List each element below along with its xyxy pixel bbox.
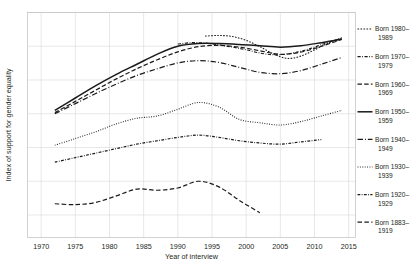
series-line-3 xyxy=(55,39,342,110)
x-axis-title: Year of interview xyxy=(165,252,219,261)
x-tick-label: 2010 xyxy=(307,242,323,251)
series-line-7 xyxy=(55,181,260,213)
legend-label-3[interactable]: Born 1950– xyxy=(375,108,409,115)
legend-label-4[interactable]: Born 1940– xyxy=(375,136,409,143)
legend-label-1-line2[interactable]: 1979 xyxy=(378,62,393,69)
x-tick-label: 1985 xyxy=(136,242,152,251)
legend-label-3-line2[interactable]: 1959 xyxy=(378,117,393,124)
x-tick-label: 1990 xyxy=(170,242,186,251)
legend-label-2-line2[interactable]: 1969 xyxy=(378,89,393,96)
x-tick-label: 1995 xyxy=(204,242,220,251)
chart-container: 1970197519801985199019952000200520102015… xyxy=(0,0,416,275)
x-tick-label: 2000 xyxy=(238,242,254,251)
x-tick-label: 2005 xyxy=(272,242,288,251)
legend-label-5[interactable]: Born 1930– xyxy=(375,163,409,170)
line-chart: 1970197519801985199019952000200520102015… xyxy=(0,0,416,275)
legend-label-7-line2[interactable]: 1919 xyxy=(378,227,393,234)
x-tick-label: 1970 xyxy=(33,242,49,251)
legend-label-2[interactable]: Born 1960– xyxy=(375,81,409,88)
x-tick-label: 1975 xyxy=(67,242,83,251)
series-line-5 xyxy=(55,102,342,145)
x-tick-label: 2015 xyxy=(341,242,357,251)
legend-label-5-line2[interactable]: 1939 xyxy=(378,172,393,179)
legend-label-6-line2[interactable]: 1929 xyxy=(378,200,393,207)
x-tick-label: 1980 xyxy=(102,242,118,251)
legend-label-7[interactable]: Born 1883– xyxy=(375,219,409,226)
legend-label-1[interactable]: Born 1970– xyxy=(375,53,409,60)
legend-label-0[interactable]: Born 1980– xyxy=(375,25,409,32)
legend-label-0-line2[interactable]: 1989 xyxy=(378,34,393,41)
legend-label-6[interactable]: Born 1920– xyxy=(375,191,409,198)
series-line-6 xyxy=(55,135,322,162)
series-line-4 xyxy=(55,58,342,114)
y-axis-title: Index of support for gender equality xyxy=(4,68,13,181)
series-line-2 xyxy=(55,40,342,113)
legend-label-4-line2[interactable]: 1949 xyxy=(378,145,393,152)
